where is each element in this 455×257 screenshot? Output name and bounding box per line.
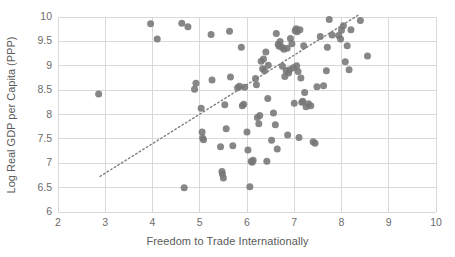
data-point: [263, 158, 270, 165]
data-point: [270, 110, 277, 117]
data-point: [191, 86, 198, 93]
data-point: [272, 121, 279, 128]
data-point: [244, 129, 251, 136]
data-point: [295, 134, 302, 141]
data-point: [246, 183, 253, 190]
data-point: [244, 147, 251, 154]
data-point: [255, 120, 262, 127]
x-tick-label: 6: [235, 216, 259, 228]
data-point: [301, 89, 308, 96]
x-tick-label: 3: [93, 216, 117, 228]
data-point: [337, 35, 344, 42]
x-tick-label: 4: [141, 216, 165, 228]
y-tick-label: 7: [22, 156, 52, 168]
data-point: [274, 146, 281, 153]
data-point: [223, 125, 230, 132]
data-point: [364, 53, 371, 60]
y-tick-label: 10: [22, 10, 52, 22]
scatter-chart: Log Real GDP per Capita (PPP) 66.577.588…: [0, 0, 455, 257]
x-tick-label: 2: [46, 216, 70, 228]
data-point: [291, 100, 298, 107]
data-point: [198, 105, 205, 112]
y-tick-label: 6.5: [22, 181, 52, 193]
data-point: [313, 83, 320, 90]
data-point: [241, 84, 248, 91]
y-tick-label: 9: [22, 59, 52, 71]
data-point: [253, 81, 260, 88]
data-point: [147, 20, 154, 27]
data-point: [284, 131, 291, 138]
data-point: [324, 44, 331, 51]
data-point: [268, 137, 275, 144]
data-point: [238, 44, 245, 51]
data-point: [154, 35, 161, 42]
data-point: [265, 62, 272, 69]
data-point: [323, 67, 330, 74]
y-tick-label: 7.5: [22, 132, 52, 144]
gridlines: [58, 17, 436, 212]
data-point: [296, 26, 303, 33]
x-axis-title: Freedom to Trade Internationally: [0, 235, 455, 247]
data-point: [326, 16, 333, 23]
data-point: [293, 62, 300, 69]
data-point: [184, 23, 191, 30]
data-point: [221, 101, 228, 108]
data-point: [220, 174, 227, 181]
data-point: [208, 31, 215, 38]
data-point: [297, 74, 304, 81]
data-point: [252, 75, 259, 82]
x-tick-label: 7: [282, 216, 306, 228]
plot-svg: [58, 17, 436, 212]
y-tick-label: 9.5: [22, 34, 52, 46]
data-point: [217, 143, 224, 150]
data-point: [95, 91, 102, 98]
data-point: [279, 63, 286, 70]
y-axis-title: Log Real GDP per Capita (PPP): [5, 36, 17, 193]
data-points: [95, 16, 371, 191]
y-tick-label: 8: [22, 108, 52, 120]
data-point: [264, 95, 271, 102]
x-tick-label: 5: [188, 216, 212, 228]
data-point: [256, 112, 263, 119]
data-point: [344, 42, 351, 49]
data-point: [276, 43, 283, 50]
x-tick-label: 10: [424, 216, 448, 228]
plot-area: [58, 17, 436, 212]
data-point: [284, 45, 291, 52]
data-point: [340, 22, 347, 29]
data-point: [295, 68, 302, 75]
data-point: [329, 32, 336, 39]
data-point: [317, 33, 324, 40]
data-point: [320, 82, 327, 89]
data-point: [307, 102, 314, 109]
y-axis-title-container: Log Real GDP per Capita (PPP): [0, 0, 22, 229]
data-point: [250, 157, 257, 164]
data-point: [209, 76, 216, 83]
data-point: [347, 26, 354, 33]
data-point: [357, 17, 364, 24]
data-point: [229, 142, 236, 149]
data-point: [227, 73, 234, 80]
data-point: [240, 101, 247, 108]
data-point: [226, 28, 233, 35]
data-point: [312, 140, 319, 147]
data-point: [181, 184, 188, 191]
x-tick-label: 9: [377, 216, 401, 228]
x-tick-label: 8: [330, 216, 354, 228]
y-tick-label: 8.5: [22, 83, 52, 95]
data-point: [342, 58, 349, 65]
data-point: [300, 42, 307, 49]
data-point: [192, 80, 199, 87]
data-point: [346, 66, 353, 73]
data-point: [262, 49, 269, 56]
data-point: [178, 20, 185, 27]
data-point: [260, 55, 267, 62]
data-point: [273, 30, 280, 37]
data-point: [200, 136, 207, 143]
